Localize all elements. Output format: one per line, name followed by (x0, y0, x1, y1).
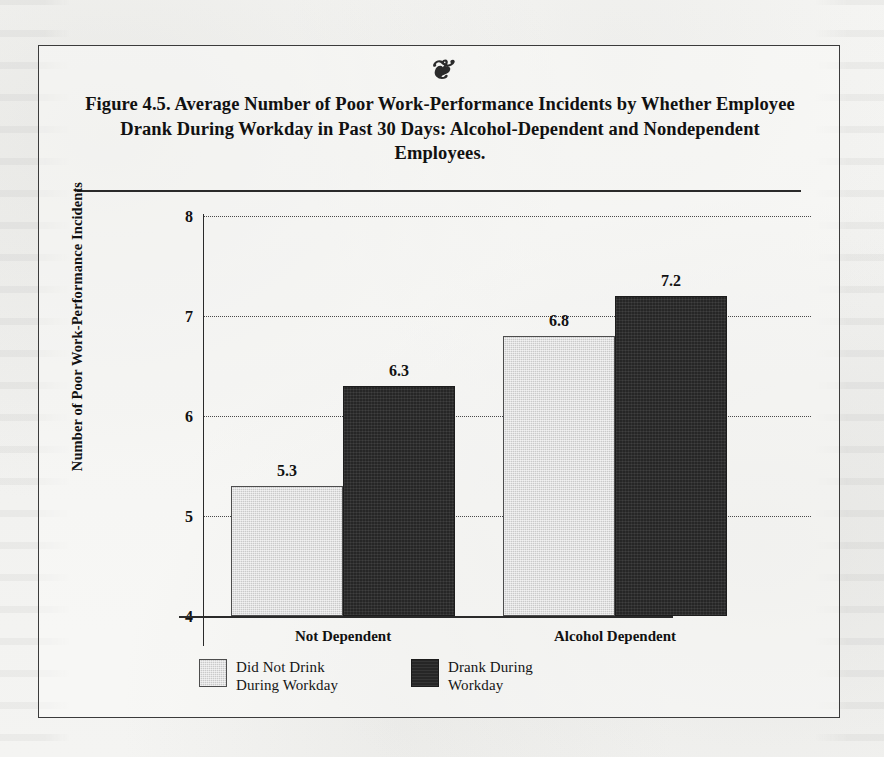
x-category-label-alcohol-dependent: Alcohol Dependent (500, 629, 730, 644)
bar-value-not-dependent-did-not-drink: 5.3 (252, 463, 322, 479)
figure-frame: ❦ Figure 4.5. Average Number of Poor Wor… (38, 45, 840, 718)
legend-item-did-not-drink[interactable]: Did Not Drink During Workday (199, 658, 338, 695)
bar-chart-plot: Number of Poor Work-Performance Incident… (39, 46, 841, 719)
bar-not-dependent-did-not-drink[interactable] (231, 486, 343, 616)
bar-value-alcohol-dependent-drank: 7.2 (636, 273, 706, 289)
bar-alcohol-dependent-did-not-drink[interactable] (503, 336, 615, 616)
legend-label-drank: Drank During Workday (448, 658, 533, 695)
y-axis-line (203, 214, 204, 646)
bar-value-alcohol-dependent-did-not-drink: 6.8 (524, 313, 594, 329)
x-axis-line (179, 616, 673, 618)
legend-item-drank[interactable]: Drank During Workday (411, 658, 533, 695)
y-axis-title: Number of Poor Work-Performance Incident… (69, 167, 86, 487)
y-tick-label-5: 5 (167, 509, 193, 525)
y-tick-label-6: 6 (167, 409, 193, 425)
legend-swatch-dark-icon (411, 659, 439, 687)
gridline-8 (203, 216, 811, 217)
bar-value-not-dependent-drank: 6.3 (364, 363, 434, 379)
chart-legend: Did Not Drink During Workday Drank Durin… (199, 658, 719, 710)
bar-alcohol-dependent-drank[interactable] (615, 296, 727, 616)
legend-swatch-light-gray-icon (199, 659, 227, 687)
legend-label-did-not-drink: Did Not Drink During Workday (236, 658, 338, 695)
x-category-label-not-dependent: Not Dependent (228, 629, 458, 644)
y-tick-label-7: 7 (167, 309, 193, 325)
y-tick-label-8: 8 (167, 209, 193, 225)
bar-not-dependent-drank[interactable] (343, 386, 455, 616)
